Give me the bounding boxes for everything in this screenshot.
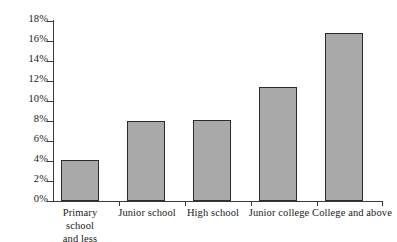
y-tick-mark	[47, 41, 53, 42]
y-tick-label: 6%	[4, 133, 48, 144]
y-tick-label: 4%	[4, 153, 48, 164]
y-tick-mark	[47, 81, 53, 82]
y-tick-mark	[47, 141, 53, 142]
y-tick-label: 14%	[4, 53, 48, 64]
x-category-label-college-and-above: College and above	[307, 206, 397, 219]
y-tick-label: 18%	[4, 13, 48, 24]
y-tick-label: 12%	[4, 73, 48, 84]
x-category-label-high-school: High school	[180, 206, 246, 219]
y-tick-mark	[47, 101, 53, 102]
x-axis-line	[53, 201, 382, 202]
y-tick-mark	[47, 161, 53, 162]
x-category-label-junior-college: Junior college	[243, 206, 315, 219]
bar-primary-school-and-less	[61, 160, 99, 201]
y-tick-label: 16%	[4, 33, 48, 44]
y-tick-mark	[47, 21, 53, 22]
y-tick-label: 2%	[4, 173, 48, 184]
y-tick-label: 10%	[4, 93, 48, 104]
bar-junior-college	[259, 87, 297, 201]
y-tick-mark	[47, 61, 53, 62]
y-axis-line	[53, 20, 54, 202]
y-tick-mark	[47, 181, 53, 182]
bar-high-school	[193, 120, 231, 201]
y-tick-label: 0%	[4, 193, 48, 204]
bar-junior-school	[127, 121, 165, 201]
y-tick-mark	[47, 121, 53, 122]
y-tick-label: 8%	[4, 113, 48, 124]
bar-college-and-above	[325, 33, 363, 201]
x-category-label-primary-school: Primary school and less	[50, 206, 110, 242]
x-category-label-junior-school: Junior school	[112, 206, 182, 219]
bar-chart: 18% 16% 14% 12% 10% 8% 6% 4% 2% 0%	[0, 0, 397, 242]
